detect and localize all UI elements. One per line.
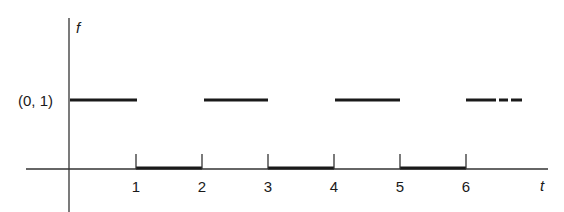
y-axis-label: f: [76, 19, 82, 36]
y-level-label: (0, 1): [18, 92, 53, 109]
square-wave-chart: f t (0, 1) 1 2 3 4 5 6: [0, 0, 564, 212]
tick-label-2: 2: [198, 178, 206, 195]
tick-label-5: 5: [396, 178, 404, 195]
x-axis-label: t: [540, 177, 545, 194]
tick-label-6: 6: [462, 178, 470, 195]
tick-labels: 1 2 3 4 5 6: [132, 178, 470, 195]
tick-label-1: 1: [132, 178, 140, 195]
tick-label-3: 3: [264, 178, 272, 195]
tick-label-4: 4: [330, 178, 338, 195]
